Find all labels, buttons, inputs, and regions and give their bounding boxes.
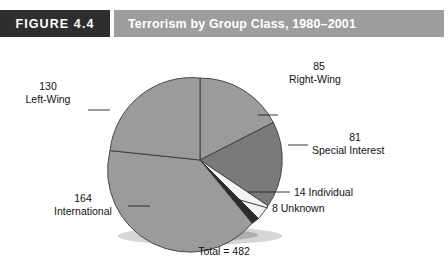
figure-number-tag: FIGURE 4.4: [0, 10, 110, 37]
callout-unknown: 8 Unknown: [272, 202, 325, 215]
pie-chart-area: 85 Right-Wing 130 Left-Wing 81 Special I…: [0, 40, 448, 274]
callout-special-interest-label: Special Interest: [312, 144, 398, 157]
callout-individual: 14 Individual: [294, 186, 353, 199]
figure-header: FIGURE 4.4 Terrorism by Group Class, 198…: [0, 10, 448, 37]
pie-slice-left-wing: [110, 78, 200, 160]
callout-right-wing: 85 Right-Wing: [289, 60, 349, 85]
figure-title: Terrorism by Group Class, 1980–2001: [128, 17, 356, 31]
callout-left-wing-label: Left-Wing: [12, 93, 84, 106]
callout-international-value: 164: [42, 192, 124, 205]
pie-total-label: Total = 482: [0, 245, 448, 257]
figure-title-bar: Terrorism by Group Class, 1980–2001: [114, 10, 444, 37]
callout-special-interest: 81 Special Interest: [312, 131, 398, 156]
callout-right-wing-value: 85: [289, 60, 349, 73]
pie-chart-svg: [0, 40, 448, 274]
callout-international-label: International: [42, 205, 124, 218]
callout-special-interest-value: 81: [312, 131, 398, 144]
callout-international: 164 International: [42, 192, 124, 217]
callout-right-wing-label: Right-Wing: [289, 73, 349, 86]
callout-left-wing: 130 Left-Wing: [12, 80, 84, 105]
callout-left-wing-value: 130: [12, 80, 84, 93]
